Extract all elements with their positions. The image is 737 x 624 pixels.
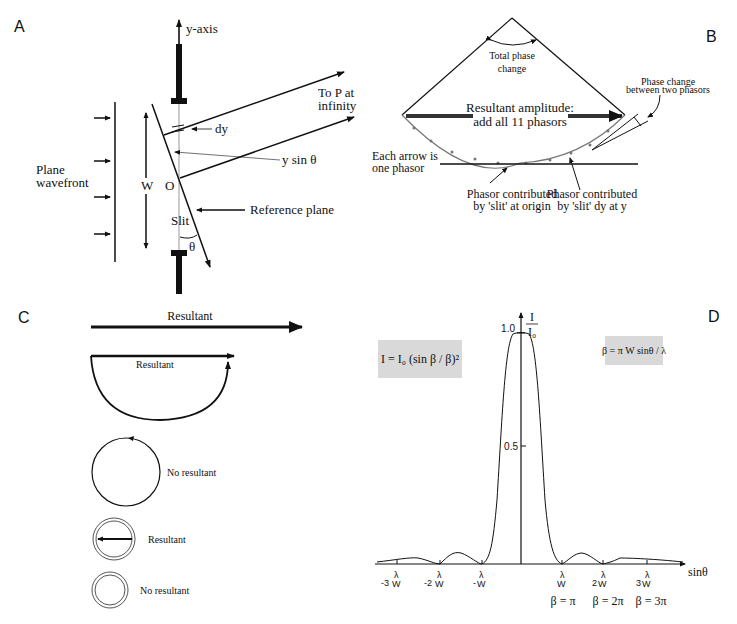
svg-text:2: 2 [592, 578, 597, 588]
ray-top [164, 72, 344, 135]
slit-barrier-bottom [176, 254, 182, 294]
svg-text:W: W [435, 579, 444, 589]
panel-a: A y-axis Plane wavefront W O Reference p… [14, 18, 357, 294]
beta-3pi-label: β = 3π [636, 594, 667, 608]
panel-a-letter: A [14, 18, 25, 35]
svg-text:3: 3 [636, 578, 641, 588]
beta-pi-label: β = π [551, 594, 576, 608]
panel-d: D I = I₀ (sin β / β)² β = π W sinθ / λ I… [375, 308, 720, 608]
figure-canvas: A y-axis Plane wavefront W O Reference p… [0, 0, 737, 624]
origin-phasor-label-2: by 'slit' at origin [473, 199, 550, 213]
beta-formula: β = π W sinθ / λ [602, 345, 666, 356]
resultant-amplitude-label: Resultant amplitude: [466, 100, 574, 115]
dy-phasor-label-2: by 'slit' dy at y [557, 199, 627, 213]
y-axis-label-num: I [530, 310, 534, 324]
theta-arc [180, 235, 197, 238]
phasor-arrowheads [413, 127, 610, 165]
panel-b: B Total phase change Resultant amplitude… [372, 18, 717, 213]
change-label: change [498, 63, 527, 74]
infinity-label: infinity [318, 98, 357, 113]
intensity-formula: I = I₀ (sin β / β)² [381, 352, 459, 366]
y-tick-05: 0.5 [504, 441, 518, 452]
slit-label: Slit [171, 213, 189, 228]
panel-d-letter: D [708, 308, 720, 325]
resultant-label-3: Resultant [148, 534, 186, 545]
origin-label: O [165, 178, 174, 193]
double-circle-phasor [92, 572, 128, 608]
resultant-label-1: Resultant [167, 309, 213, 323]
theta-label: θ [189, 239, 195, 254]
svg-text:-3: -3 [381, 578, 389, 588]
between-phasors-label: between two phasors [626, 84, 710, 95]
no-resultant-label-1: No resultant [167, 467, 216, 478]
svg-text:W: W [557, 579, 566, 589]
phase-change-pointer-icon [648, 95, 660, 117]
slit-barrier-top [176, 44, 182, 100]
full-circle-phasor [92, 438, 160, 506]
add-phasors-label: add all 11 phasors [473, 114, 567, 129]
x-axis-label: sinθ [688, 565, 708, 579]
svg-text:W: W [392, 579, 401, 589]
resultant-label-2: Resultant [136, 359, 174, 370]
svg-text:W: W [598, 579, 607, 589]
beta-2pi-label: β = 2π [593, 594, 624, 608]
y-axis-label: y-axis [186, 21, 218, 36]
total-phase-label: Total phase [489, 50, 535, 61]
no-resultant-label-2: No resultant [140, 585, 189, 596]
dy-phasor-pointer-icon [570, 158, 580, 190]
wavefront-label: wavefront [36, 175, 89, 190]
panel-c-letter: C [18, 309, 30, 326]
ray-origin [180, 117, 354, 178]
x-tick-labels: -3 λ W -2 λ W - λ W λ W 2 λ W 3 λ W [381, 570, 651, 589]
ysin-pointer-icon [175, 152, 280, 160]
panel-c: C Resultant Resultant No resultant Resul… [18, 309, 302, 608]
panel-b-letter: B [706, 28, 717, 45]
y-tick-1: 1.0 [501, 323, 515, 334]
y-axis-label-den: I₀ [528, 325, 536, 339]
reference-plane-label: Reference plane [250, 202, 334, 217]
svg-text:-2: -2 [424, 578, 432, 588]
svg-text:-: - [473, 578, 476, 588]
one-phasor-label: one phasor [372, 161, 424, 175]
dy-label: dy [215, 121, 229, 136]
svg-text:W: W [642, 579, 651, 589]
ysin-label: y sin θ [282, 152, 316, 167]
total-phase-arc [491, 40, 536, 45]
w-label: W [141, 178, 154, 193]
origin-phasor-pointer-icon [490, 168, 507, 183]
svg-text:W: W [477, 579, 486, 589]
